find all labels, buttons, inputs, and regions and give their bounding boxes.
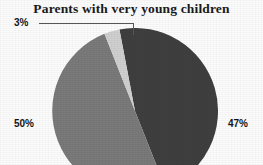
page-title: Parents with very young children xyxy=(0,1,263,16)
slice-label-3: 3% xyxy=(14,17,28,28)
pie-slices xyxy=(52,28,218,165)
slice-label-50: 50% xyxy=(14,118,34,129)
pie-chart-graphic xyxy=(52,28,218,165)
pie-svg xyxy=(52,28,218,165)
leader-line-vertical xyxy=(133,23,134,35)
leader-line-horizontal xyxy=(39,23,134,24)
pie-chart-figure: Parents with very young children 3% 50% … xyxy=(0,0,263,165)
slice-label-47: 47% xyxy=(228,118,248,129)
